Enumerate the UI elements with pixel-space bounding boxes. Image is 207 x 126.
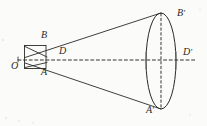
label-point-B-prime: B′ <box>177 8 185 18</box>
geometry-figure: O B A D B′ D′ A′ <box>0 0 207 126</box>
figure-canvas <box>0 0 207 126</box>
label-point-D-prime: D′ <box>183 47 192 57</box>
label-point-B: B <box>41 30 47 40</box>
label-point-D: D <box>59 46 66 56</box>
label-point-A: A <box>41 67 47 77</box>
label-point-A-prime: A′ <box>146 105 154 115</box>
label-point-O: O <box>11 61 18 71</box>
